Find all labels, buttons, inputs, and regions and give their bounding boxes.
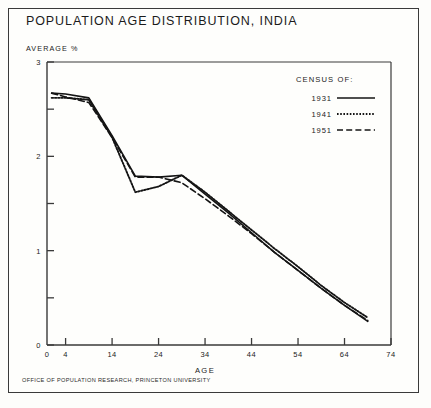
legend-label-1941: 1941: [312, 110, 333, 119]
figure-root: POPULATION AGE DISTRIBUTION, INDIA AVERA…: [0, 0, 431, 408]
y-tick-label: 3: [36, 58, 41, 67]
legend-heading: CENSUS OF:: [296, 75, 353, 84]
x-tick-label: 0: [45, 350, 50, 359]
legend-label-1951: 1951: [312, 126, 333, 135]
x-tick-label: 44: [247, 350, 256, 359]
x-axis-title: AGE: [195, 366, 215, 375]
legend-label-1931: 1931: [312, 94, 333, 103]
chart-legend: CENSUS OF:193119411951: [296, 75, 375, 135]
x-tick-label: 74: [386, 350, 395, 359]
x-tick-label: 34: [200, 350, 209, 359]
y-axis-ticks: 0123: [36, 58, 54, 350]
source-credit: OFFICE OF POPULATION RESEARCH, PRINCETON…: [22, 377, 211, 383]
x-tick-label: 24: [154, 350, 163, 359]
y-tick-label: 1: [36, 247, 41, 256]
plot-area: 0123 0414243444546474 CENSUS OF:19311941…: [0, 0, 431, 408]
x-tick-label: 14: [107, 350, 116, 359]
y-tick-label: 0: [36, 341, 41, 350]
x-tick-label: 54: [293, 350, 302, 359]
x-tick-label: 4: [63, 350, 68, 359]
x-tick-label: 64: [340, 350, 349, 359]
y-tick-label: 2: [36, 152, 41, 161]
x-axis-ticks: 0414243444546474: [45, 338, 396, 359]
